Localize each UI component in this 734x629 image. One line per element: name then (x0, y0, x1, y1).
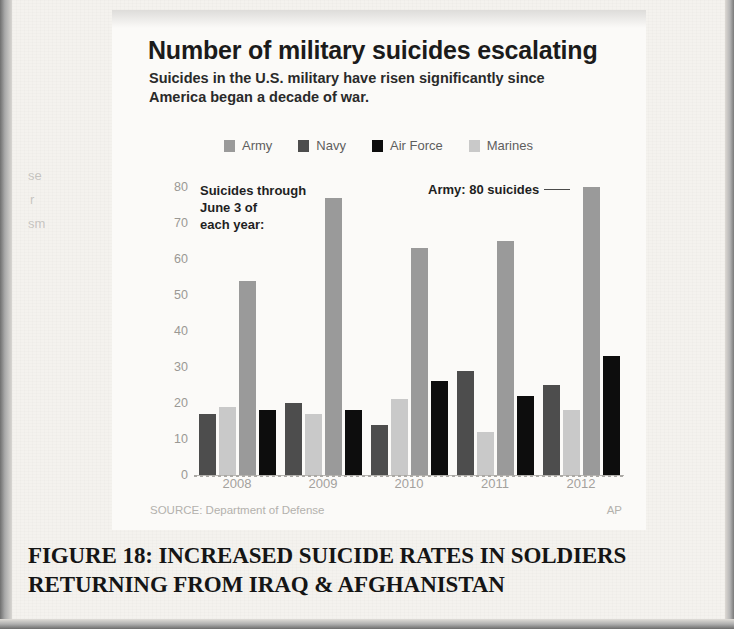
bar-group-2010 (371, 187, 448, 475)
legend-item-marines: Marines (469, 138, 533, 153)
bar-air-force-2012 (603, 356, 620, 475)
y-axis-tick-40: 40 (148, 324, 188, 338)
bar-group-bars (543, 187, 620, 475)
bar-group-bars (371, 187, 448, 475)
legend-item-navy: Navy (298, 138, 346, 153)
legend-label: Navy (316, 138, 346, 153)
legend-label: Army (242, 138, 272, 153)
legend-swatch-icon (224, 140, 235, 152)
plot-area: Suicides through June 3 of each year: Ar… (148, 180, 626, 480)
y-axis-tick-0: 0 (148, 468, 188, 482)
y-axis-tick-50: 50 (148, 288, 188, 302)
y-axis-tick-10: 10 (148, 432, 188, 446)
chart-clipping: Number of military suicides escalating S… (112, 10, 646, 530)
chart-title: Number of military suicides escalating (148, 36, 598, 65)
bar-navy-2012 (543, 385, 560, 475)
x-axis-label-2008: 2008 (194, 476, 280, 491)
y-axis-tick-70: 70 (148, 216, 188, 230)
bar-group-bars (285, 187, 362, 475)
bar-navy-2008 (199, 414, 216, 475)
legend-label: Air Force (390, 138, 443, 153)
legend-label: Marines (487, 138, 533, 153)
chart-subtitle: Suicides in the U.S. military have risen… (149, 69, 589, 107)
bar-air-force-2011 (517, 396, 534, 475)
bar-navy-2009 (285, 403, 302, 475)
scanned-page: se r sm Number of military suicides esca… (0, 0, 734, 629)
source-label: SOURCE: Department of Defense (150, 504, 325, 516)
bar-navy-2011 (457, 371, 474, 475)
scan-edge-left (0, 0, 12, 629)
scan-smudge (112, 10, 646, 28)
y-axis-tick-30: 30 (148, 360, 188, 374)
x-axis-label-2011: 2011 (452, 476, 538, 491)
bar-marines-2008 (219, 407, 236, 475)
bar-army-2012 (583, 187, 600, 475)
legend-swatch-icon (372, 140, 383, 152)
scan-edge-bottom (0, 619, 734, 629)
bar-navy-2010 (371, 425, 388, 475)
y-axis-tick-20: 20 (148, 396, 188, 410)
source-row: SOURCE: Department of Defense AP (150, 504, 622, 516)
scan-edge-right (725, 0, 734, 629)
x-axis-label-2010: 2010 (366, 476, 452, 491)
bar-air-force-2008 (259, 410, 276, 475)
bar-group-2011 (457, 187, 534, 475)
bar-army-2010 (411, 248, 428, 475)
bar-army-2011 (497, 241, 514, 475)
bar-marines-2012 (563, 410, 580, 475)
bar-air-force-2010 (431, 381, 448, 475)
bar-army-2008 (239, 281, 256, 475)
figure-caption: FIGURE 18: INCREASED SUICIDE RATES IN SO… (28, 541, 704, 599)
x-axis-label-2009: 2009 (280, 476, 366, 491)
legend-item-army: Army (224, 138, 272, 153)
bar-group-bars (457, 187, 534, 475)
bars-region (194, 187, 624, 476)
y-axis-tick-80: 80 (148, 180, 188, 194)
legend-item-air-force: Air Force (372, 138, 443, 153)
bar-group-2012 (543, 187, 620, 475)
legend-swatch-icon (469, 140, 480, 152)
y-axis-tick-60: 60 (148, 252, 188, 266)
x-axis-label-2012: 2012 (538, 476, 624, 491)
bar-marines-2011 (477, 432, 494, 475)
bar-group-bars (199, 187, 276, 475)
bar-group-2009 (285, 187, 362, 475)
legend-swatch-icon (298, 140, 309, 152)
bar-marines-2010 (391, 399, 408, 475)
bar-army-2009 (325, 198, 342, 475)
bar-group-2008 (199, 187, 276, 475)
source-credit: AP (607, 504, 622, 516)
bar-air-force-2009 (345, 410, 362, 475)
chart-legend: ArmyNavyAir ForceMarines (224, 138, 624, 153)
bar-marines-2009 (305, 414, 322, 475)
